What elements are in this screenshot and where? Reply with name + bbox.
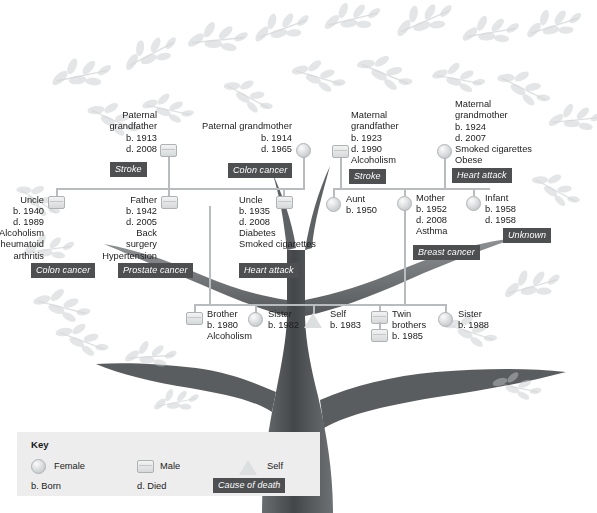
family-tree-diagram: Paternal grandfather b. 1913 d. 2008 Str… <box>0 0 597 513</box>
label-paternal-grandfather-died: d. 2008 <box>72 144 157 155</box>
key-female-label: Female <box>54 461 85 471</box>
symbol-female-paternal-grandmother[interactable] <box>296 143 311 158</box>
symbol-female-maternal-grandmother[interactable] <box>437 144 452 159</box>
label-maternal-grandmother-relation: Maternal grandmother <box>455 99 577 122</box>
badge-cause-of-death-uncle-1940: Colon cancer <box>31 263 95 278</box>
label-uncle1935-died: d. 2008 <box>239 217 349 228</box>
label-maternal-grandmother-conditions: Smoked cigarettes Obese <box>455 144 577 167</box>
key-born-label: b. Born <box>31 481 61 491</box>
label-paternal-grandmother-relation: Paternal grandmother <box>168 121 292 132</box>
symbol-male-father[interactable] <box>161 196 178 209</box>
symbol-female-sister-1982[interactable] <box>248 312 263 327</box>
connector-paternal-grandfather-drop <box>168 156 170 188</box>
connector-father-down <box>209 206 211 305</box>
key-male-label: Male <box>160 461 180 471</box>
label-twins-born: b. 1985 <box>392 331 452 342</box>
label-father-conditions: Back surgery Hypertension <box>86 228 157 262</box>
label-uncle1940-born: b. 1940 <box>0 206 44 217</box>
label-brother-conditions: Alcoholism <box>207 331 277 342</box>
label-sister1988-relation: Sister <box>458 309 512 320</box>
label-maternal-grandfather-relation: Maternal grandfather <box>351 110 447 133</box>
badge-cause-of-death-uncle-1935: Heart attack <box>239 263 299 278</box>
label-paternal-grandfather-born: b. 1913 <box>72 133 157 144</box>
label-mother-died: d. 2008 <box>416 215 478 226</box>
symbol-self-triangle[interactable] <box>304 313 322 328</box>
label-maternal-grandfather-conditions: Alcoholism <box>351 155 447 166</box>
label-mother-conditions: Asthma <box>416 226 478 237</box>
connector-maternal-children-bar <box>333 188 490 190</box>
label-infant-relation: Infant <box>485 193 555 204</box>
connector-mother-down <box>404 206 406 305</box>
key-died-label: d. Died <box>137 481 166 491</box>
key-legend-box: Key Female Male Self b. Born d. Died Cau… <box>17 432 320 496</box>
label-maternal-grandfather-died: d. 1990 <box>351 144 447 155</box>
badge-cause-of-death-infant: Unknown <box>503 228 551 243</box>
label-uncle1940-conditions: Alcoholism Rheumatoid arthritis <box>0 228 44 262</box>
label-uncle1940-died: d. 1989 <box>0 217 44 228</box>
label-uncle1935-conditions: Diabetes Smoked cigarettes <box>239 228 354 251</box>
label-paternal-grandmother-born: b. 1914 <box>168 133 292 144</box>
connector-twin-link <box>379 322 381 330</box>
badge-cause-of-death-paternal-grandmother: Colon cancer <box>228 163 292 178</box>
symbol-male-brother[interactable] <box>186 312 203 325</box>
label-sister1988-born: b. 1988 <box>458 320 512 331</box>
badge-cause-of-death-mother: Breast cancer <box>413 245 480 260</box>
key-female-icon <box>31 459 46 474</box>
key-self-icon <box>239 460 257 475</box>
badge-cause-of-death-maternal-grandfather: Stroke <box>349 169 386 184</box>
connector-maternal-grandfather-drop <box>340 157 342 188</box>
label-maternal-grandmother-born: b. 1924 <box>455 122 577 133</box>
badge-cause-of-death-maternal-grandmother: Heart attack <box>452 168 512 183</box>
label-father-relation: Father <box>96 195 157 206</box>
badge-cause-of-death-father: Prostate cancer <box>118 263 193 278</box>
key-cause-of-death-badge: Cause of death <box>213 478 285 493</box>
label-maternal-grandfather-born: b. 1923 <box>351 133 447 144</box>
symbol-female-infant[interactable] <box>466 196 481 211</box>
symbol-male-maternal-grandfather[interactable] <box>332 145 349 158</box>
symbol-female-mother[interactable] <box>397 196 412 211</box>
symbol-female-aunt[interactable] <box>326 197 341 212</box>
label-paternal-grandfather-relation: Paternal grandfather <box>72 110 157 133</box>
key-title: Key <box>31 439 49 450</box>
label-uncle1940-relation: Uncle <box>0 195 44 206</box>
symbol-male-uncle-1940[interactable] <box>48 196 65 209</box>
key-self-label: Self <box>267 461 283 471</box>
badge-cause-of-death-paternal-grandfather: Stroke <box>110 162 147 177</box>
label-father-died: d. 2005 <box>96 217 157 228</box>
label-paternal-grandmother-died: d. 1965 <box>168 144 292 155</box>
label-maternal-grandmother-died: d. 2007 <box>455 133 577 144</box>
label-father-born: b. 1942 <box>96 206 157 217</box>
symbol-male-twin-2[interactable] <box>371 329 388 342</box>
key-male-icon <box>137 460 154 473</box>
label-infant-died: d. 1958 <box>485 215 555 226</box>
label-infant-born: b. 1958 <box>485 204 555 215</box>
connector-paternal-children-bar <box>56 188 305 190</box>
connector-sibling-bar <box>194 304 446 306</box>
connector-paternal-grandmother-drop <box>303 157 305 188</box>
symbol-female-sister-1988[interactable] <box>438 312 453 327</box>
